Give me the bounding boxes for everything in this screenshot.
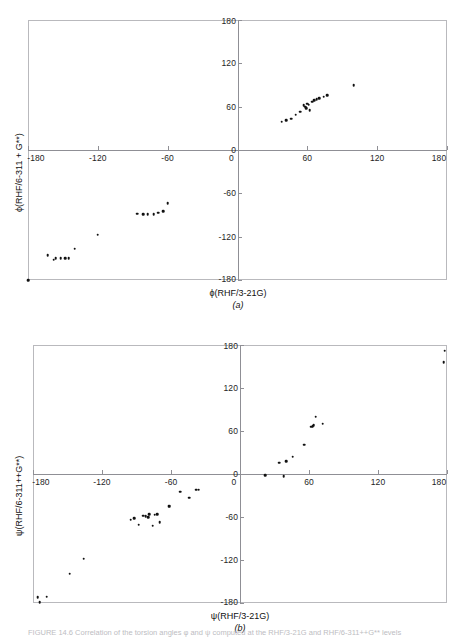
data-point <box>97 233 100 236</box>
data-point <box>278 461 281 464</box>
y-tick-label-b: -60 <box>225 513 238 522</box>
x-tick-b <box>447 470 448 474</box>
data-point <box>292 456 295 459</box>
x-tick-b <box>33 470 34 474</box>
x-tick-label-a: 180 <box>432 154 446 163</box>
x-tick-label-b: 180 <box>432 478 446 487</box>
data-point <box>147 516 150 519</box>
data-point <box>166 202 169 205</box>
figure-container: -180-120-60060120180-180-120-60060120180… <box>0 0 468 637</box>
x-tick-label-b: -180 <box>32 478 49 487</box>
data-point <box>282 475 285 478</box>
data-point <box>353 84 356 87</box>
y-tick-label-a: 0 <box>231 146 236 155</box>
x-tick-b <box>102 470 103 474</box>
data-point <box>305 107 308 110</box>
data-point <box>162 210 165 213</box>
y-tick-b <box>240 560 244 561</box>
data-point <box>285 460 288 463</box>
data-point <box>303 443 306 446</box>
x-tick-a <box>307 146 308 150</box>
data-point <box>179 491 182 494</box>
data-point <box>156 513 159 516</box>
data-point <box>151 524 154 527</box>
x-tick-label-a: 120 <box>370 154 384 163</box>
data-point <box>59 257 62 260</box>
data-point <box>133 517 136 520</box>
y-tick-label-a: 120 <box>222 59 236 68</box>
scatter-panel-a: -180-120-60060120180-180-120-60060120180… <box>0 0 468 310</box>
y-tick-a <box>238 107 242 108</box>
y-tick-label-b: -120 <box>221 556 238 565</box>
panel-caption-a: (a) <box>233 300 244 310</box>
y-tick-label-b: 180 <box>224 342 238 351</box>
data-point <box>152 213 155 216</box>
y-tick-label-a: -120 <box>219 232 236 241</box>
y-tick-a <box>238 193 242 194</box>
y-tick-label-b: -180 <box>221 598 238 607</box>
data-point <box>157 212 160 215</box>
x-tick-label-a: -180 <box>27 154 44 163</box>
x-tick-a <box>377 146 378 150</box>
x-tick-a <box>168 146 169 150</box>
y-tick-label-a: 180 <box>222 17 236 26</box>
data-point <box>312 424 315 427</box>
x-tick-label-b: 60 <box>304 478 314 487</box>
y-tick-a <box>238 20 242 21</box>
data-point <box>36 596 39 599</box>
y-tick-label-b: 120 <box>224 384 238 393</box>
x-tick-label-b: -60 <box>165 478 178 487</box>
data-point <box>47 254 50 257</box>
y-tick-label-a: 60 <box>226 102 236 111</box>
data-point <box>138 524 141 527</box>
data-point <box>136 212 139 215</box>
data-point <box>142 213 145 216</box>
y-tick-label-b: 60 <box>228 427 238 436</box>
data-point <box>326 94 329 97</box>
data-point <box>315 415 318 418</box>
x-tick-a <box>447 146 448 150</box>
x-tick-label-a: 60 <box>303 154 313 163</box>
data-point <box>69 572 72 575</box>
data-point <box>64 257 67 260</box>
data-point <box>46 595 49 598</box>
data-point <box>290 118 293 121</box>
data-point <box>322 95 325 98</box>
data-point <box>294 113 297 116</box>
x-tick-b <box>171 470 172 474</box>
y-tick-b <box>240 603 244 604</box>
data-point <box>67 257 70 260</box>
data-point <box>318 97 321 100</box>
x-tick-a <box>28 146 29 150</box>
data-point <box>197 489 200 492</box>
x-tick-label-b: -120 <box>93 478 110 487</box>
scatter-panel-b: -180-120-60060120180-180-120-60060120180… <box>0 320 468 630</box>
data-point <box>130 519 133 522</box>
data-point <box>188 496 191 499</box>
data-point <box>285 119 288 122</box>
figure-caption: FIGURE 14.6 Correlation of the torsion a… <box>28 628 448 637</box>
data-point <box>55 257 58 260</box>
data-point <box>82 557 85 560</box>
x-tick-label-a: -120 <box>89 154 106 163</box>
data-point <box>307 103 310 106</box>
y-tick-b <box>240 431 244 432</box>
data-point <box>442 361 445 364</box>
y-axis-title-b: ψ(RHF/6-311++G**) <box>14 456 24 536</box>
x-axis-title-a: ϕ(RHF/3-21G) <box>209 288 266 298</box>
y-tick-a <box>238 237 242 238</box>
x-tick-label-a: -60 <box>161 154 174 163</box>
data-point <box>169 505 172 508</box>
y-axis-line-b <box>240 345 241 603</box>
data-point <box>322 423 325 426</box>
x-tick-label-a: 0 <box>229 154 234 163</box>
y-axis-line-a <box>238 20 239 280</box>
x-axis-title-b: ψ(RHF/3-21G) <box>211 611 269 621</box>
y-tick-label-a: -180 <box>219 275 236 284</box>
y-tick-b <box>240 517 244 518</box>
data-point <box>39 601 42 604</box>
data-point <box>73 248 76 251</box>
x-tick-a <box>98 146 99 150</box>
data-point <box>308 109 311 112</box>
x-tick-b <box>309 470 310 474</box>
